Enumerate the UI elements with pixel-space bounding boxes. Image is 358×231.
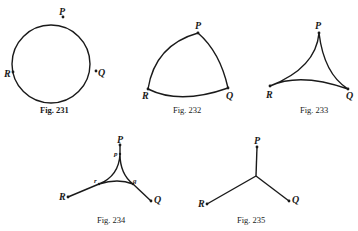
point-q bbox=[227, 87, 230, 90]
label-p: P bbox=[117, 134, 124, 145]
fig-231: P Q R Fig. 231 bbox=[3, 6, 105, 115]
point-r bbox=[269, 85, 272, 88]
label-r: R bbox=[197, 198, 205, 209]
segment-q bbox=[256, 176, 289, 201]
point-p bbox=[256, 146, 259, 149]
spoke-r bbox=[68, 184, 99, 197]
label-p: P bbox=[59, 6, 66, 17]
caption-fig-232: Fig. 232 bbox=[173, 105, 201, 115]
label-r: R bbox=[265, 89, 273, 100]
figure-sheet: P Q R Fig. 231 P Q R Fig. 232 P Q R Fig.… bbox=[0, 0, 358, 231]
label-r: R bbox=[3, 68, 11, 79]
caption-fig-233: Fig. 233 bbox=[300, 105, 328, 115]
point-r bbox=[206, 203, 209, 206]
circle-curve bbox=[12, 25, 90, 103]
label-small-r: r bbox=[94, 177, 97, 185]
label-q: Q bbox=[154, 194, 161, 205]
label-q: Q bbox=[346, 90, 353, 101]
label-p: P bbox=[195, 20, 202, 31]
point-small-p bbox=[119, 153, 121, 155]
fig-234: P Q R p q r Fig. 234 bbox=[58, 134, 161, 225]
label-q: Q bbox=[226, 90, 233, 101]
point-r bbox=[67, 196, 70, 199]
label-q: Q bbox=[98, 67, 105, 78]
label-r: R bbox=[141, 90, 149, 101]
label-small-q: q bbox=[133, 177, 137, 185]
point-p bbox=[197, 32, 200, 35]
segment-p bbox=[256, 147, 257, 176]
fig-235: P Q R Fig. 235 bbox=[197, 135, 299, 225]
fig-232: P Q R Fig. 232 bbox=[141, 20, 233, 115]
label-q: Q bbox=[292, 194, 299, 205]
point-small-r bbox=[98, 183, 100, 185]
point-q bbox=[150, 200, 153, 203]
segment-r bbox=[207, 176, 256, 204]
spoke-q bbox=[133, 184, 151, 201]
caption-fig-235: Fig. 235 bbox=[237, 215, 265, 225]
caption-fig-234: Fig. 234 bbox=[97, 215, 126, 225]
label-r: R bbox=[58, 191, 66, 202]
point-r bbox=[12, 71, 15, 74]
concave-triangle-curve bbox=[270, 33, 348, 89]
point-q bbox=[95, 70, 98, 73]
convex-triangle-curve bbox=[148, 33, 228, 97]
label-small-p: p bbox=[113, 150, 118, 158]
point-p bbox=[318, 32, 321, 35]
label-p: P bbox=[315, 20, 322, 31]
concave-triangle-curve bbox=[99, 154, 133, 184]
fig-233: P Q R Fig. 233 bbox=[265, 20, 353, 115]
caption-fig-231: Fig. 231 bbox=[40, 105, 69, 115]
label-p: P bbox=[254, 135, 261, 146]
point-q bbox=[288, 200, 291, 203]
